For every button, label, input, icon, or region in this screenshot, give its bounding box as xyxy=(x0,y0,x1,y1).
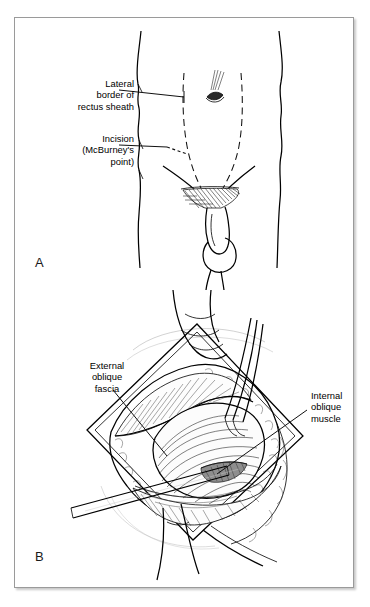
figure-frame: Lateral border of rectus sheath Incision… xyxy=(14,17,354,588)
label-internal-oblique-muscle: Internal oblique muscle xyxy=(311,390,370,424)
panel-letter-b: B xyxy=(35,549,44,564)
figure-root: Lateral border of rectus sheath Incision… xyxy=(0,0,370,607)
label-lateral-border-of-rectus-sheath: Lateral border of rectus sheath xyxy=(33,78,134,112)
panel-b-illustration xyxy=(15,290,353,589)
umbilicus-mark xyxy=(206,70,224,102)
panel-letter-a: A xyxy=(35,255,44,270)
label-external-oblique-fascia: External oblique fascia xyxy=(73,360,141,394)
panel-a: Lateral border of rectus sheath Incision… xyxy=(15,18,353,290)
label-incision-mcburneys-point: Incision (McBurney's point) xyxy=(33,133,134,167)
panel-b: External oblique fascia Internal oblique… xyxy=(15,290,353,589)
